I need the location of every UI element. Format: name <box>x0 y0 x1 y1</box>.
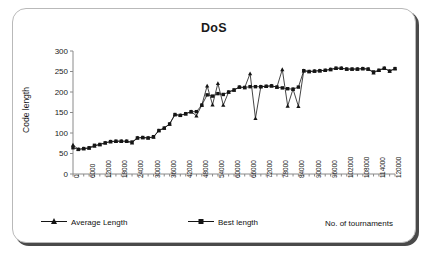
x-tick-label: 42000 <box>186 160 193 178</box>
data-point-marker-best <box>248 85 251 88</box>
legend-label-best-length: Best length <box>218 218 258 227</box>
data-point-marker-best <box>393 67 396 70</box>
data-point-marker-best <box>77 148 80 151</box>
data-point-marker-average <box>221 103 225 107</box>
data-point-marker-best <box>340 67 343 70</box>
triangle-marker-icon <box>41 217 67 228</box>
data-point-marker-best <box>146 136 149 139</box>
data-point-marker-best <box>275 85 278 88</box>
data-point-marker-best <box>152 135 155 138</box>
data-point-marker-best <box>291 87 294 90</box>
data-point-marker-best <box>238 85 241 88</box>
data-point-marker-best <box>227 90 230 93</box>
x-tick-label: 30000 <box>154 160 161 178</box>
data-point-marker-average <box>216 81 220 85</box>
x-tick-label: 54000 <box>218 160 225 178</box>
y-tick-label: 300 <box>55 47 69 56</box>
data-point-marker-best <box>313 69 316 72</box>
x-tick-label: 102000 <box>347 157 354 178</box>
data-point-marker-best <box>259 85 262 88</box>
y-tick-label: 200 <box>55 88 69 97</box>
data-point-marker-best <box>130 140 133 143</box>
series-line-best-length <box>73 68 395 149</box>
data-point-marker-best <box>383 67 386 70</box>
data-point-marker-best <box>334 67 337 70</box>
data-point-marker-best <box>205 93 208 96</box>
data-point-marker-best <box>173 113 176 116</box>
data-point-marker-best <box>93 144 96 147</box>
y-tick-label: 0 <box>64 170 69 179</box>
x-tick-label: 48000 <box>202 160 209 178</box>
data-point-marker-best <box>372 70 375 73</box>
legend-item-best-length: Best length <box>188 217 258 228</box>
x-tick-label: 24000 <box>137 160 144 178</box>
data-point-marker-best <box>189 110 192 113</box>
x-tick-label: 78000 <box>282 160 289 178</box>
data-point-marker-best <box>297 85 300 88</box>
data-point-marker-average <box>286 104 290 108</box>
x-tick-label: 60000 <box>234 160 241 178</box>
data-point-marker-best <box>109 140 112 143</box>
data-point-marker-best <box>120 140 123 143</box>
x-tick-label: 72000 <box>266 160 273 178</box>
data-point-marker-best <box>281 86 284 89</box>
data-point-marker-best <box>243 86 246 89</box>
y-tick-label: 100 <box>55 129 69 138</box>
y-axis: 050100150200250300 <box>55 47 73 179</box>
x-tick-label: 12000 <box>105 160 112 178</box>
data-point-marker-best <box>168 122 171 125</box>
x-tick-label: 114000 <box>379 157 386 178</box>
data-point-marker-best <box>200 103 203 106</box>
data-point-marker-best <box>286 87 289 90</box>
y-axis-title: Code length <box>21 75 31 145</box>
series-line-average-length <box>73 68 395 149</box>
y-tick-label: 50 <box>59 149 68 158</box>
data-point-marker-best <box>345 67 348 70</box>
data-point-marker-best <box>318 69 321 72</box>
data-point-marker-best <box>71 146 74 149</box>
data-point-marker-best <box>254 85 257 88</box>
data-point-marker-best <box>356 67 359 70</box>
legend-label-average-length: Average Length <box>71 218 127 227</box>
data-point-marker-best <box>265 85 268 88</box>
data-point-marker-best <box>329 68 332 71</box>
data-point-marker-best <box>361 67 364 70</box>
data-point-marker-best <box>195 110 198 113</box>
data-point-marker-best <box>324 69 327 72</box>
data-point-marker-best <box>307 70 310 73</box>
legend-item-average-length: Average Length <box>41 217 127 228</box>
x-tick-label: 6000 <box>89 164 96 178</box>
x-tick-label: 84000 <box>298 160 305 178</box>
data-point-marker-average <box>210 103 214 107</box>
data-point-marker-average <box>253 116 257 120</box>
x-tick-label: 18000 <box>121 160 128 178</box>
y-tick-label: 250 <box>55 67 69 76</box>
x-tick-label: 120000 <box>395 157 402 178</box>
data-point-marker-best <box>179 114 182 117</box>
x-tick-label: 66000 <box>250 160 257 178</box>
square-marker-icon <box>188 217 214 228</box>
y-tick-label: 150 <box>55 108 69 117</box>
data-point-marker-best <box>366 67 369 70</box>
data-point-marker-best <box>98 143 101 146</box>
data-point-marker-best <box>222 93 225 96</box>
x-axis-title: No. of tournaments <box>325 219 393 228</box>
data-point-marker-best <box>302 69 305 72</box>
data-point-marker-best <box>141 136 144 139</box>
data-point-marker-average <box>280 67 284 71</box>
data-point-marker-best <box>87 146 90 149</box>
data-point-marker-best <box>350 67 353 70</box>
data-point-marker-best <box>104 141 107 144</box>
x-tick-label: 36000 <box>170 160 177 178</box>
data-point-marker-best <box>388 69 391 72</box>
data-point-marker-best <box>184 112 187 115</box>
data-point-marker-best <box>270 84 273 87</box>
data-point-marker-best <box>211 94 214 97</box>
data-point-marker-average <box>205 84 209 88</box>
data-point-marker-best <box>232 88 235 91</box>
data-point-marker-best <box>216 92 219 95</box>
data-point-marker-best <box>136 136 139 139</box>
data-point-marker-average <box>248 71 252 75</box>
chart-title: DoS <box>13 21 415 35</box>
data-point-marker-average <box>296 104 300 108</box>
